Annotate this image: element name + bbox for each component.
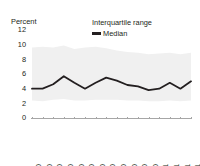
x-tick-jul-20: Jul-20 — [99, 164, 106, 166]
x-tick-mark — [149, 117, 150, 119]
x-tick-mark — [138, 117, 139, 119]
x-tick-mark — [117, 117, 118, 119]
x-tick-sep-20: Sep-20 — [120, 164, 127, 166]
x-tick-mark — [170, 117, 171, 119]
x-tick-mark — [96, 117, 97, 119]
chart-svg — [31, 30, 192, 118]
y-tick-12: 12 — [4, 26, 26, 33]
x-tick-feb-21: Feb-21 — [173, 164, 180, 166]
x-tick-jan-21: Jan-21 — [162, 164, 169, 166]
x-tick-mark — [32, 117, 33, 119]
x-axis-tick-labels: Jan-20Feb-20Mar-20Apr-20May-20Jun-20Jul-… — [31, 119, 192, 166]
x-tick-mark — [127, 117, 128, 119]
x-tick-mark — [180, 117, 181, 119]
x-tick-mark — [85, 117, 86, 119]
legend-label-interquartile-range: Interquartile range — [92, 18, 152, 27]
y-axis-tick-labels: 024681012 — [4, 0, 26, 166]
x-tick-mark — [106, 117, 107, 119]
x-tick-mar-20: Mar-20 — [56, 164, 63, 166]
x-tick-apr-20: Apr-20 — [67, 164, 74, 166]
y-tick-2: 2 — [4, 100, 26, 107]
x-tick-nov-20: Nov-20 — [141, 164, 148, 166]
x-tick-mark — [53, 117, 54, 119]
chart-container: Percent Interquartile range Median 02468… — [0, 0, 200, 166]
x-tick-may-20: May-20 — [78, 164, 85, 166]
y-tick-4: 4 — [4, 85, 26, 92]
x-tick-mar-21: Mar-21 — [184, 164, 191, 166]
y-tick-8: 8 — [4, 56, 26, 63]
x-tick-mark — [43, 117, 44, 119]
x-tick-aug-20: Aug-20 — [109, 164, 116, 166]
interquartile-range-band — [32, 45, 191, 101]
x-tick-mark — [64, 117, 65, 119]
legend-item-interquartile-range: Interquartile range — [92, 17, 152, 28]
y-tick-0: 0 — [4, 114, 26, 121]
plot-area — [31, 30, 192, 118]
x-tick-dec-20: Dec-20 — [152, 164, 159, 166]
x-tick-jan-20: Jan-20 — [35, 164, 42, 166]
y-tick-6: 6 — [4, 70, 26, 77]
y-tick-10: 10 — [4, 41, 26, 48]
x-tick-mark — [159, 117, 160, 119]
x-tick-mark — [74, 117, 75, 119]
x-tick-apr-21: Apr-21 — [194, 164, 200, 166]
x-tick-jun-20: Jun-20 — [88, 164, 95, 166]
x-tick-oct-20: Oct-20 — [131, 164, 138, 166]
x-tick-mark — [191, 117, 192, 119]
x-tick-feb-20: Feb-20 — [46, 164, 53, 166]
